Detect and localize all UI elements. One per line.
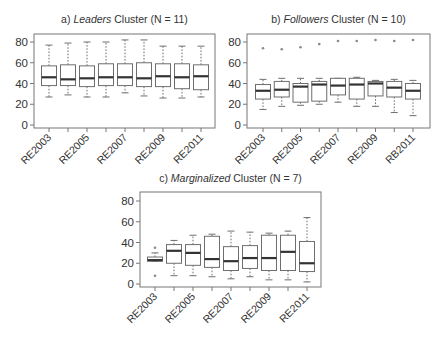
- outlier-point: [355, 40, 358, 43]
- figure-boxplot-clusters: a) Leaders Cluster (N = 11)020406080RE20…: [0, 0, 448, 338]
- panel-title: b) Followers Cluster (N = 10): [271, 13, 406, 25]
- box-RE2007: [118, 40, 133, 93]
- x-tick-label: RE2011: [171, 131, 206, 166]
- outlier-point: [280, 48, 283, 51]
- iqr-box: [42, 66, 57, 86]
- y-tick-label: 0: [22, 119, 28, 131]
- y-tick-label: 40: [15, 78, 28, 90]
- box-RE2003: [42, 45, 57, 97]
- x-tick-label: RE2005: [162, 290, 197, 325]
- box-RE2006: [312, 43, 327, 104]
- x-axis: RE2003RE2005RE2007RE2009RE2011: [124, 287, 311, 325]
- outlier-point: [154, 274, 157, 277]
- outlier-point: [318, 43, 321, 46]
- box-RE2011: [194, 46, 209, 97]
- outlier-point: [374, 39, 377, 42]
- chart-canvas: a) Leaders Cluster (N = 11)020406080RE20…: [0, 0, 448, 338]
- y-axis: 020406080: [228, 36, 247, 131]
- y-tick-label: 60: [121, 216, 134, 228]
- box-RE2004: [274, 48, 289, 106]
- x-tick-label: RE2009: [345, 131, 380, 166]
- box-RE2005: [293, 46, 308, 105]
- iqr-box: [349, 78, 364, 99]
- outlier-point: [337, 40, 340, 43]
- x-tick-label: RB2011: [383, 131, 418, 166]
- x-axis: RE2003RE2005RE2007RE2009RB2011: [232, 128, 417, 166]
- box-RE2007: [224, 231, 239, 279]
- box-RE2008: [243, 232, 258, 277]
- iqr-box: [262, 235, 277, 270]
- iqr-box: [186, 245, 201, 266]
- x-tick-label: RE2009: [132, 131, 167, 166]
- x-tick-label: RE2003: [18, 131, 53, 166]
- box-RE2009: [262, 233, 277, 280]
- iqr-box: [99, 64, 114, 86]
- x-tick-label: RE2003: [124, 290, 159, 325]
- panel-a: a) Leaders Cluster (N = 11)020406080RE20…: [15, 13, 215, 166]
- iqr-box: [300, 241, 315, 271]
- y-tick-label: 80: [15, 36, 28, 48]
- box-RE2010: [175, 46, 190, 98]
- y-tick-label: 0: [128, 278, 134, 290]
- y-tick-label: 20: [228, 98, 241, 110]
- outlier-point: [262, 47, 265, 50]
- x-tick-label: RE2007: [200, 290, 235, 325]
- box-RE2008: [137, 40, 152, 96]
- iqr-box: [167, 245, 182, 264]
- iqr-box: [224, 247, 239, 271]
- iqr-box: [137, 63, 152, 87]
- box-RE2003: [256, 47, 271, 110]
- x-tick-label: RE2009: [238, 290, 273, 325]
- box-RE2005: [186, 235, 201, 275]
- x-tick-label: RE2011: [277, 290, 312, 325]
- box-RE2009: [156, 46, 171, 98]
- box-RE2005: [80, 42, 95, 97]
- iqr-box: [205, 236, 220, 267]
- outlier-point: [154, 246, 157, 249]
- box-RE2007: [331, 40, 346, 103]
- box-RE2011: [300, 218, 315, 282]
- panel-title: a) Leaders Cluster (N = 11): [61, 13, 188, 25]
- outlier-point: [412, 39, 415, 42]
- box-RB2011: [406, 39, 421, 116]
- box-RE2006: [99, 42, 114, 97]
- y-tick-label: 60: [228, 57, 241, 69]
- y-axis: 020406080: [121, 195, 140, 290]
- y-tick-label: 0: [235, 119, 241, 131]
- box-RE2009: [368, 39, 383, 107]
- y-tick-label: 80: [121, 195, 134, 207]
- box-RE2004: [61, 43, 76, 95]
- y-tick-label: 40: [121, 237, 134, 249]
- x-tick-label: RE2005: [270, 131, 305, 166]
- panel-b: b) Followers Cluster (N = 10)020406080RE…: [228, 13, 430, 166]
- box-RE2008: [349, 40, 364, 107]
- y-tick-label: 80: [228, 36, 241, 48]
- y-tick-label: 20: [15, 98, 28, 110]
- iqr-box: [387, 81, 402, 97]
- x-tick-label: RE2007: [307, 131, 342, 166]
- x-tick-label: RE2007: [94, 131, 129, 166]
- panel-title: c) Marginalized Cluster (N = 7): [159, 172, 302, 184]
- box-RE2010: [387, 40, 402, 113]
- y-tick-label: 20: [121, 257, 134, 269]
- x-tick-label: RE2005: [56, 131, 91, 166]
- y-tick-label: 40: [228, 78, 241, 90]
- box-RE2003: [148, 246, 163, 277]
- outlier-point: [299, 46, 302, 49]
- iqr-box: [118, 64, 133, 86]
- box-RE2006: [205, 234, 220, 277]
- y-axis: 020406080: [15, 36, 34, 131]
- iqr-box: [80, 66, 95, 87]
- outlier-point: [393, 40, 396, 43]
- panel-c: c) Marginalized Cluster (N = 7)020406080…: [121, 172, 321, 325]
- iqr-box: [61, 65, 76, 86]
- box-RE2010: [281, 231, 296, 280]
- x-axis: RE2003RE2005RE2007RE2009RE2011: [18, 128, 205, 166]
- x-tick-label: RE2003: [232, 131, 267, 166]
- y-tick-label: 60: [15, 57, 28, 69]
- box-RE2004: [167, 240, 182, 275]
